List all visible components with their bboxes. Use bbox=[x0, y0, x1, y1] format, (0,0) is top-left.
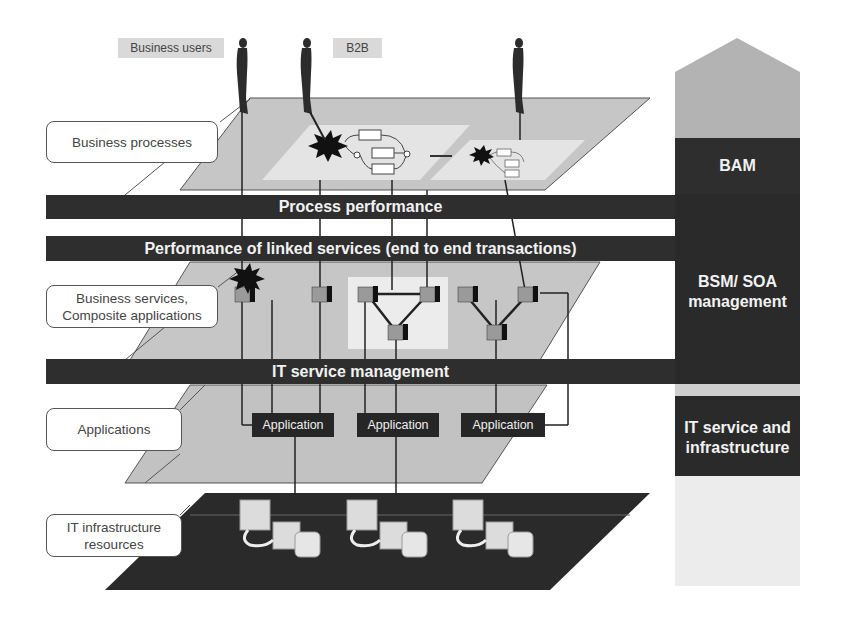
side-label-bam: BAM bbox=[675, 138, 800, 194]
bar-it-service-management: IT service management bbox=[46, 359, 675, 384]
application-box: Application bbox=[461, 413, 545, 437]
bar-linked-services: Performance of linked services (end to e… bbox=[46, 236, 675, 261]
side-label-it-service: IT service and infrastructure bbox=[675, 410, 800, 465]
application-box: Application bbox=[252, 413, 334, 437]
layer-label-business-processes: Business processes bbox=[46, 121, 218, 163]
bar-process-performance: Process performance bbox=[46, 195, 675, 219]
application-box: Application bbox=[357, 413, 439, 437]
layer-label-business-services: Business services, Composite application… bbox=[46, 285, 218, 328]
layer-label-it-infrastructure: IT infrastructure resources bbox=[46, 514, 182, 557]
side-label-bsm-soa: BSM/ SOA management bbox=[675, 262, 800, 322]
b2b-tag: B2B bbox=[333, 38, 382, 58]
side-arrow-head bbox=[675, 38, 800, 138]
layer-label-applications: Applications bbox=[46, 408, 182, 451]
business-users-tag: Business users bbox=[118, 38, 224, 58]
person-icon bbox=[237, 38, 248, 114]
side-fade-block bbox=[675, 476, 800, 586]
